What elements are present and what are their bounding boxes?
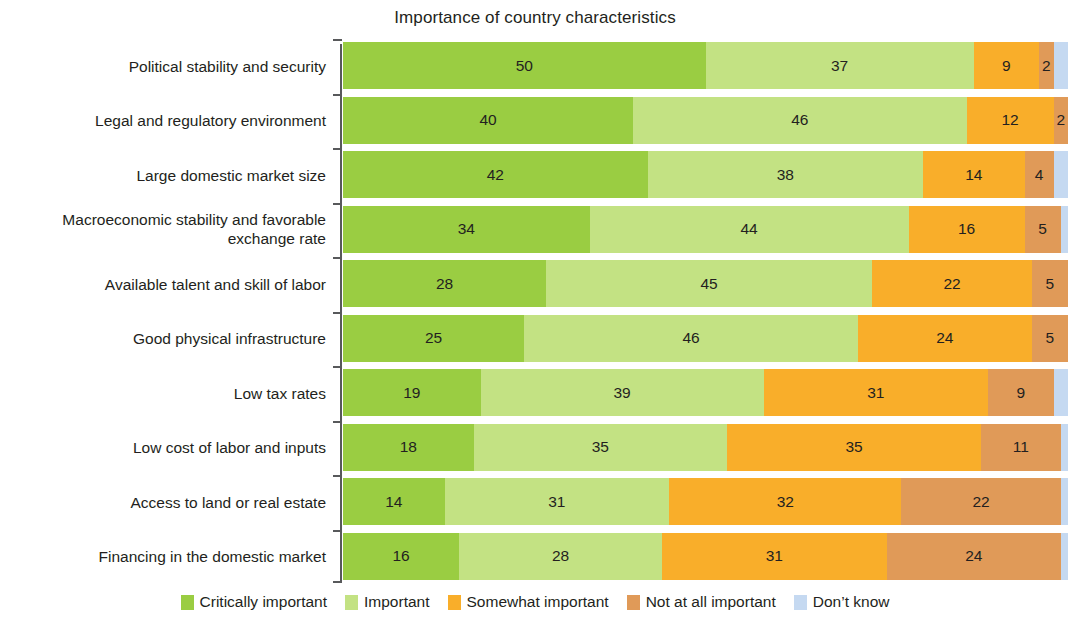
bar-segment-value: 35 [846, 438, 863, 456]
bar-segment[interactable]: 31 [445, 478, 670, 525]
bar-row: Access to land or real estate14313222 [0, 478, 1070, 525]
legend-label: Important [364, 593, 429, 611]
bar-segment-value: 37 [831, 57, 848, 75]
bar-segment[interactable] [1061, 424, 1068, 471]
bar-segment-value: 38 [777, 166, 794, 184]
legend-swatch-icon [181, 595, 194, 610]
bar-segment[interactable]: 50 [343, 42, 706, 89]
bar-segment[interactable] [1061, 533, 1068, 580]
legend-item[interactable]: Don’t know [794, 593, 890, 611]
bar-segment[interactable]: 39 [481, 369, 764, 416]
stacked-bar: 2546245 [343, 315, 1068, 362]
bar-segment[interactable]: 19 [343, 369, 481, 416]
bar-row: Low tax rates1939319 [0, 369, 1070, 416]
bar-segment-value: 39 [614, 384, 631, 402]
category-label: Large domestic market size [0, 165, 326, 184]
bar-segment-value: 2 [1042, 57, 1051, 75]
bar-segment[interactable]: 5 [1032, 260, 1068, 307]
bar-segment[interactable]: 12 [967, 97, 1054, 144]
stacked-bar: 14313222 [343, 478, 1068, 525]
legend-label: Somewhat important [467, 593, 609, 611]
bar-segment[interactable]: 4 [1025, 151, 1054, 198]
legend-item[interactable]: Somewhat important [448, 593, 609, 611]
bar-segment[interactable]: 40 [343, 97, 633, 144]
stacked-bar: 18353511 [343, 424, 1068, 471]
bar-segment[interactable]: 45 [546, 260, 872, 307]
bar-segment[interactable]: 46 [633, 97, 967, 144]
bar-segment-value: 19 [403, 384, 420, 402]
bar-segment-value: 24 [936, 329, 953, 347]
bar-segment[interactable]: 5 [1032, 315, 1068, 362]
bar-segment-value: 45 [701, 275, 718, 293]
axis-tick [333, 94, 342, 96]
bar-segment[interactable]: 24 [887, 533, 1061, 580]
legend-item[interactable]: Not at all important [627, 593, 776, 611]
bar-segment-value: 22 [943, 275, 960, 293]
bar-segment[interactable]: 22 [901, 478, 1061, 525]
bar-segment[interactable] [1061, 206, 1068, 253]
bar-segment-value: 31 [867, 384, 884, 402]
bar-segment-value: 22 [972, 493, 989, 511]
bar-segment[interactable]: 14 [923, 151, 1025, 198]
bar-segment[interactable]: 46 [524, 315, 858, 362]
stacked-bar: 4238144 [343, 151, 1068, 198]
bar-segment[interactable] [1061, 478, 1068, 525]
bar-segment[interactable]: 22 [872, 260, 1032, 307]
bar-segment[interactable]: 18 [343, 424, 474, 471]
bar-segment[interactable]: 25 [343, 315, 524, 362]
bar-segment[interactable]: 35 [474, 424, 728, 471]
bar-segment[interactable] [1054, 369, 1069, 416]
axis-tick [333, 39, 342, 41]
bar-segment-value: 9 [1017, 384, 1026, 402]
bar-segment[interactable]: 24 [858, 315, 1032, 362]
category-label: Political stability and security [0, 56, 326, 75]
bar-segment[interactable]: 2 [1039, 42, 1054, 89]
bar-segment-value: 32 [777, 493, 794, 511]
bar-segment-value: 44 [740, 220, 757, 238]
bar-segment[interactable]: 38 [648, 151, 924, 198]
bar-segment-value: 5 [1046, 275, 1055, 293]
chart-container: Importance of country characteristics Po… [0, 0, 1070, 619]
axis-tick [333, 530, 342, 532]
bar-segment-value: 11 [1013, 438, 1029, 456]
bar-segment-value: 28 [552, 547, 569, 565]
bar-row: Legal and regulatory environment4046122 [0, 97, 1070, 144]
chart-legend: Critically importantImportantSomewhat im… [0, 593, 1070, 611]
bar-segment-value: 46 [791, 111, 808, 129]
bar-segment[interactable]: 32 [669, 478, 901, 525]
bar-segment[interactable]: 28 [459, 533, 662, 580]
bar-segment-value: 16 [958, 220, 975, 238]
bar-segment[interactable]: 2 [1054, 97, 1069, 144]
bar-segment[interactable]: 35 [727, 424, 981, 471]
bar-segment[interactable]: 9 [974, 42, 1039, 89]
bar-segment[interactable]: 44 [590, 206, 909, 253]
plot-area: Political stability and security503792Le… [0, 42, 1070, 585]
category-label: Low tax rates [0, 383, 326, 402]
bar-segment[interactable]: 16 [909, 206, 1025, 253]
bar-segment-value: 5 [1046, 329, 1055, 347]
legend-item[interactable]: Critically important [181, 593, 327, 611]
bar-segment[interactable] [1054, 151, 1069, 198]
category-label: Financing in the domestic market [0, 547, 326, 566]
legend-item[interactable]: Important [345, 593, 429, 611]
bar-segment[interactable]: 42 [343, 151, 648, 198]
bar-rows: Political stability and security503792Le… [0, 42, 1070, 585]
bar-segment[interactable]: 28 [343, 260, 546, 307]
bar-segment-value: 28 [436, 275, 453, 293]
bar-segment[interactable]: 11 [981, 424, 1061, 471]
bar-segment[interactable]: 34 [343, 206, 590, 253]
bar-segment[interactable]: 16 [343, 533, 459, 580]
bar-segment-value: 34 [458, 220, 475, 238]
bar-segment[interactable]: 5 [1025, 206, 1061, 253]
bar-segment[interactable]: 31 [764, 369, 989, 416]
bar-segment[interactable]: 37 [706, 42, 974, 89]
bar-segment[interactable] [1054, 42, 1069, 89]
bar-segment[interactable]: 14 [343, 478, 445, 525]
bar-segment[interactable]: 31 [662, 533, 887, 580]
axis-tick [333, 421, 342, 423]
stacked-bar: 1939319 [343, 369, 1068, 416]
bar-segment-value: 4 [1035, 166, 1044, 184]
bar-segment[interactable]: 9 [988, 369, 1053, 416]
axis-tick [333, 257, 342, 259]
bar-row: Low cost of labor and inputs18353511 [0, 424, 1070, 471]
